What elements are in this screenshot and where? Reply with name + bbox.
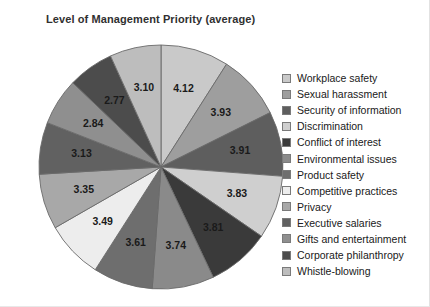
legend: Workplace safetySexual harassmentSecurit… <box>282 70 428 279</box>
pie-slice-value-label: 3.93 <box>211 106 232 118</box>
pie-slice-value-label: 3.49 <box>92 215 113 227</box>
pie-chart: 4.123.933.913.833.813.743.613.493.353.13… <box>37 42 285 292</box>
page-title: Level of Management Priority (average) <box>46 13 255 25</box>
legend-item-label: Sexual harassment <box>297 88 387 100</box>
legend-color-swatch <box>282 154 291 163</box>
legend-item[interactable]: Gifts and entertainment <box>282 231 428 247</box>
legend-color-swatch <box>282 218 291 227</box>
legend-item[interactable]: Security of information <box>282 102 428 118</box>
legend-item[interactable]: Competitive practices <box>282 183 428 199</box>
pie-slice-value-label: 3.61 <box>125 236 146 248</box>
legend-color-swatch <box>282 202 291 211</box>
legend-item-label: Corporate philanthropy <box>297 249 404 261</box>
legend-item[interactable]: Executive salaries <box>282 215 428 231</box>
legend-color-swatch <box>282 74 291 83</box>
legend-item-label: Executive salaries <box>297 217 382 229</box>
legend-item[interactable]: Conflict of interest <box>282 134 428 150</box>
pie-chart-svg: 4.123.933.913.833.813.743.613.493.353.13… <box>37 42 285 292</box>
pie-slice-value-label: 3.74 <box>166 239 187 251</box>
pie-slice-value-label: 3.13 <box>71 147 92 159</box>
legend-item[interactable]: Discrimination <box>282 118 428 134</box>
pie-slice-value-label: 3.81 <box>203 221 224 233</box>
legend-item[interactable]: Privacy <box>282 199 428 215</box>
legend-item[interactable]: Whistle-blowing <box>282 263 428 279</box>
legend-item-label: Whistle-blowing <box>297 265 371 277</box>
legend-item-label: Security of information <box>297 104 401 116</box>
legend-color-swatch <box>282 122 291 131</box>
legend-item-label: Competitive practices <box>297 185 397 197</box>
legend-item[interactable]: Product safety <box>282 167 428 183</box>
legend-item[interactable]: Corporate philanthropy <box>282 247 428 263</box>
pie-slice-value-label: 3.91 <box>230 144 251 156</box>
pie-slice-value-label: 2.77 <box>104 94 125 106</box>
legend-color-swatch <box>282 234 291 243</box>
legend-color-swatch <box>282 106 291 115</box>
chart-page: Level of Management Priority (average) 4… <box>0 0 430 307</box>
legend-color-swatch <box>282 90 291 99</box>
pie-slice-value-label: 3.10 <box>134 81 155 93</box>
legend-color-swatch <box>282 138 291 147</box>
legend-color-swatch <box>282 170 291 179</box>
legend-item[interactable]: Environmental issues <box>282 150 428 166</box>
legend-color-swatch <box>282 186 291 195</box>
pie-slice-value-label: 3.83 <box>227 187 248 199</box>
pie-slice-value-label: 2.84 <box>83 117 104 129</box>
legend-item-label: Privacy <box>297 201 331 213</box>
legend-item-label: Workplace safety <box>297 72 377 84</box>
legend-item-label: Conflict of interest <box>297 136 381 148</box>
legend-item-label: Environmental issues <box>297 153 397 165</box>
legend-color-swatch <box>282 267 291 276</box>
legend-item[interactable]: Sexual harassment <box>282 86 428 102</box>
pie-slice-group <box>39 45 283 289</box>
legend-item-label: Product safety <box>297 169 364 181</box>
legend-item[interactable]: Workplace safety <box>282 70 428 86</box>
legend-color-swatch <box>282 251 291 260</box>
pie-slice-value-label: 3.35 <box>74 183 95 195</box>
legend-item-label: Discrimination <box>297 120 363 132</box>
legend-item-label: Gifts and entertainment <box>297 233 406 245</box>
pie-slice-value-label: 4.12 <box>173 82 194 94</box>
